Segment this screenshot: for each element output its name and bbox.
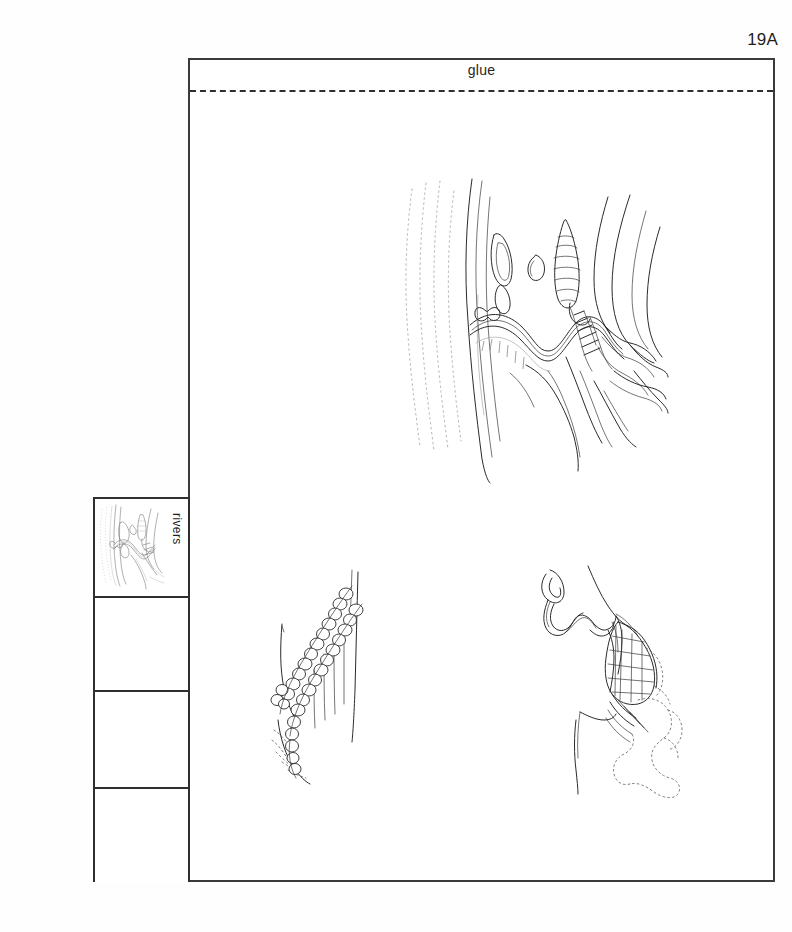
illustration-braided-river <box>260 570 395 795</box>
sidebar-index: rivers <box>93 497 190 882</box>
main-panel: glue <box>188 58 775 882</box>
conical-hill <box>554 220 580 308</box>
sidebar-item-label-rivers: rivers <box>170 513 184 545</box>
worksheet-page: 19A glue <box>0 0 792 932</box>
illustration-meandering-river <box>398 175 668 485</box>
delta-body <box>605 622 654 705</box>
glue-label: glue <box>190 62 773 78</box>
glue-fold-line <box>190 90 773 92</box>
sidebar-thumbnail-rivers <box>98 503 164 589</box>
page-number: 19A <box>747 30 778 50</box>
sidebar-item-empty-3[interactable] <box>95 789 188 883</box>
sidebar-item-empty-2[interactable] <box>95 692 188 789</box>
illustration-river-delta <box>520 560 705 800</box>
sidebar-item-rivers[interactable]: rivers <box>95 499 188 598</box>
sidebar-item-empty-1[interactable] <box>95 598 188 692</box>
glue-strip: glue <box>190 60 773 92</box>
